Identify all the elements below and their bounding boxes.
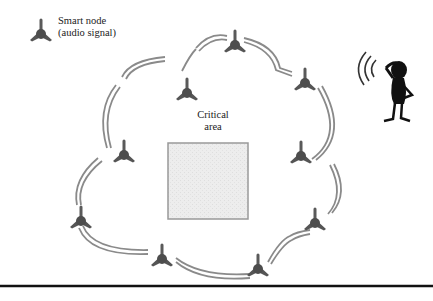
- legend-line-1: Smart node: [58, 15, 116, 27]
- sensor-network-diagram: [0, 0, 433, 301]
- link-1: [196, 35, 292, 76]
- smart-node[interactable]: [247, 255, 269, 277]
- link-7: [268, 230, 310, 264]
- link-3: [103, 85, 120, 148]
- smart-node[interactable]: [176, 79, 198, 101]
- smart-node[interactable]: [290, 142, 312, 164]
- smart-node[interactable]: [113, 141, 135, 163]
- link-9: [312, 86, 334, 160]
- link-4: [76, 158, 102, 205]
- link-8: [328, 164, 341, 214]
- smart-node[interactable]: [151, 245, 173, 267]
- critical-area-box: [168, 143, 248, 219]
- critical-area-line-2: area: [178, 121, 248, 133]
- smart-node[interactable]: [294, 69, 316, 91]
- smart-node[interactable]: [304, 209, 326, 231]
- legend-node-icon: [30, 20, 52, 42]
- link-2: [122, 49, 196, 79]
- smart-node[interactable]: [224, 31, 246, 53]
- link-5: [79, 226, 148, 254]
- smart-node[interactable]: [70, 207, 92, 229]
- legend-line-2: (audio signal): [58, 27, 116, 39]
- critical-area-label: Critical area: [178, 109, 248, 133]
- link-6: [176, 258, 250, 279]
- legend-label: Smart node (audio signal): [58, 15, 116, 39]
- person-listening-icon: [358, 52, 412, 121]
- critical-area-line-1: Critical: [178, 109, 248, 121]
